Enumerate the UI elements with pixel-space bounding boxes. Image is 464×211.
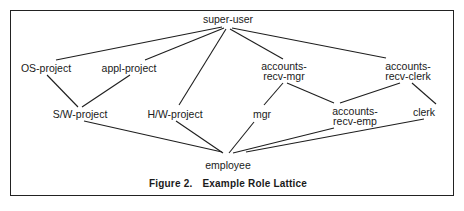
- node-label: clerk: [413, 107, 435, 117]
- edge-accounts-recv-emp-to-employee: [233, 128, 334, 153]
- node-label: employee: [205, 160, 251, 170]
- node-os-project: OS-project: [21, 63, 71, 73]
- edge-os-project-to-s-w-project: [47, 75, 78, 107]
- edge-appl-project-to-s-w-project: [82, 75, 130, 107]
- node-h-w-project: H/W-project: [147, 109, 202, 119]
- node-label: recv-clerk: [385, 71, 431, 81]
- edge-accounts-recv-mgr-to-accounts-recv-emp: [287, 83, 334, 103]
- node-label: super-user: [203, 14, 253, 24]
- figure-label: Figure 2.: [149, 178, 192, 189]
- node-clerk: clerk: [413, 107, 435, 117]
- node-mgr: mgr: [253, 109, 271, 119]
- edge-accounts-recv-clerk-to-accounts-recv-emp: [340, 83, 400, 103]
- edge-super-user-to-appl-project: [145, 28, 224, 60]
- node-accounts-recv-mgr: accounts-recv-mgr: [261, 61, 307, 81]
- edge-accounts-recv-mgr-to-mgr: [264, 83, 283, 105]
- edge-accounts-recv-clerk-to-clerk: [412, 83, 436, 104]
- node-accounts-recv-clerk: accounts-recv-clerk: [385, 61, 431, 81]
- node-accounts-recv-emp: accounts-recv-emp: [332, 106, 378, 126]
- edge-super-user-to-os-project: [56, 27, 222, 60]
- node-label: mgr: [253, 109, 271, 119]
- node-super-user: super-user: [203, 14, 253, 24]
- node-employee: employee: [205, 160, 251, 170]
- edge-h-w-project-to-employee: [176, 121, 223, 153]
- node-label: recv-mgr: [261, 71, 307, 81]
- edge-super-user-to-accounts-recv-mgr: [230, 29, 283, 59]
- node-label: recv-emp: [332, 116, 378, 126]
- node-label: S/W-project: [53, 109, 108, 119]
- node-s-w-project: S/W-project: [53, 109, 108, 119]
- node-appl-project: appl-project: [102, 63, 157, 73]
- edge-s-w-project-to-employee: [84, 121, 222, 152]
- node-label: H/W-project: [147, 109, 202, 119]
- figure-title: Example Role Lattice: [202, 178, 307, 189]
- figure-caption: Figure 2.Example Role Lattice: [149, 178, 307, 189]
- node-label: OS-project: [21, 63, 71, 73]
- node-label: appl-project: [102, 63, 157, 73]
- edge-super-user-to-h-w-project: [179, 29, 226, 105]
